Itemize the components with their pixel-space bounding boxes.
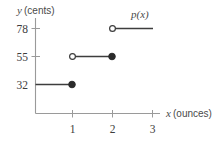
open-endpoint-3 <box>110 26 116 32</box>
postage-step-chart: 78 55 32 1 2 3 y (cents) x (ounces) p(x) <box>0 0 218 145</box>
x-axis-variable: x <box>165 107 171 119</box>
function-label-px: p(x) <box>130 8 149 21</box>
x-tick-label-3: 3 <box>150 123 156 135</box>
y-tick-label-55: 55 <box>17 51 29 63</box>
step-function-figure: 78 55 32 1 2 3 y (cents) x (ounces) p(x) <box>0 0 218 145</box>
x-tick-label-1: 1 <box>70 123 76 135</box>
y-tick-label-32: 32 <box>17 79 29 91</box>
closed-endpoint-1 <box>69 81 76 88</box>
closed-endpoint-2 <box>109 53 116 60</box>
x-tick-label-2: 2 <box>110 123 116 135</box>
x-axis-unit: (ounces) <box>173 108 212 119</box>
open-endpoint-2 <box>70 54 76 60</box>
y-axis-unit: (cents) <box>24 5 55 16</box>
y-axis-variable: y <box>16 4 22 16</box>
y-tick-label-78: 78 <box>17 23 29 35</box>
